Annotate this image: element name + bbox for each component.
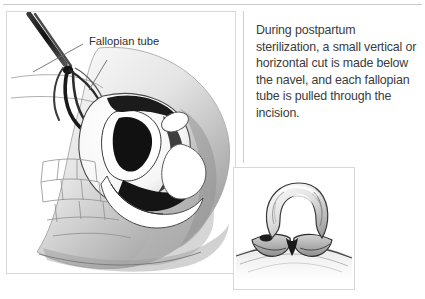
main-illustration-drawing: Fallopian tube [7, 12, 235, 273]
figure-caption: During postpartum sterilization, a small… [256, 22, 420, 122]
tube-loop-through-incision [266, 183, 327, 238]
figure-page: Fallopian tube During postpartum sterili… [0, 0, 425, 299]
incision-flaps [252, 234, 332, 256]
inset-illustration-panel [233, 167, 355, 290]
panel-divider [243, 11, 244, 163]
top-divider-rule [3, 4, 422, 5]
inset-illustration-drawing [234, 168, 354, 289]
fallopian-tube-label: Fallopian tube [89, 35, 159, 47]
main-illustration-panel: Fallopian tube [6, 11, 236, 274]
